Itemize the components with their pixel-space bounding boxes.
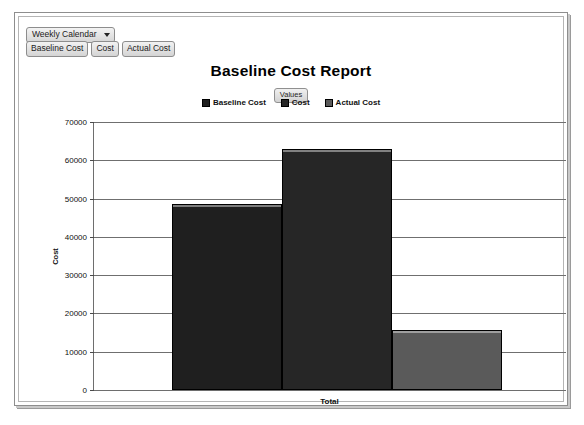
legend-item-baseline-cost[interactable]: Baseline Cost: [202, 98, 266, 107]
y-axis-tick-label: 30000: [65, 271, 87, 280]
y-axis-tick-label: 60000: [65, 156, 87, 165]
y-axis-tick-label: 10000: [65, 347, 87, 356]
legend-swatch-icon: [202, 99, 210, 107]
filter-pill-actual-cost[interactable]: Actual Cost: [122, 41, 175, 57]
bar-group: [94, 122, 566, 390]
legend-label-actual-cost: Actual Cost: [336, 98, 380, 107]
report-frame: Weekly Calendar Baseline Cost Cost Actua…: [14, 12, 568, 406]
x-axis-label: Total: [93, 397, 566, 406]
filter-pill-group: Baseline Cost Cost Actual Cost: [26, 41, 175, 57]
y-axis-tick: [90, 390, 94, 391]
chevron-down-icon: [104, 33, 110, 37]
report-page: Weekly Calendar Baseline Cost Cost Actua…: [0, 0, 584, 425]
legend-item-cost[interactable]: Cost: [281, 98, 310, 107]
legend-swatch-icon: [325, 99, 333, 107]
y-axis-tick-label: 40000: [65, 232, 87, 241]
bar-cost[interactable]: [282, 149, 392, 390]
legend-swatch-icon: [281, 99, 289, 107]
y-axis-tick-label: 70000: [65, 118, 87, 127]
bar-actual-cost[interactable]: [392, 330, 502, 390]
y-axis-tick-label: 20000: [65, 309, 87, 318]
chart-legend: Baseline Cost Cost Actual Cost: [19, 98, 563, 107]
bar-baseline-cost[interactable]: [172, 204, 282, 390]
toolbar: Weekly Calendar: [26, 23, 115, 43]
y-axis-title: Cost: [47, 122, 64, 391]
chart-title: Baseline Cost Report: [19, 62, 563, 80]
legend-label-baseline-cost: Baseline Cost: [213, 98, 266, 107]
filter-pill-cost[interactable]: Cost: [91, 41, 118, 57]
filter-pill-baseline-cost[interactable]: Baseline Cost: [26, 41, 88, 57]
y-axis-title-text: Cost: [51, 248, 60, 265]
y-axis-tick-label: 0: [83, 386, 87, 395]
report-inner-border: Weekly Calendar Baseline Cost Cost Actua…: [18, 16, 564, 402]
legend-label-cost: Cost: [292, 98, 310, 107]
legend-item-actual-cost[interactable]: Actual Cost: [325, 98, 380, 107]
plot-area: 700006000050000400003000020000100000: [93, 122, 566, 391]
calendar-select-value: Weekly Calendar: [32, 29, 97, 40]
y-axis-tick-label: 50000: [65, 194, 87, 203]
